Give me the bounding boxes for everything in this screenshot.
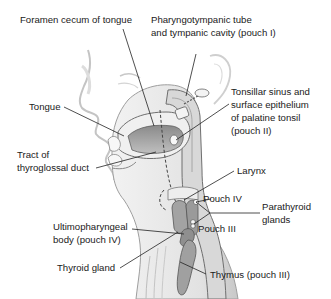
label-larynx: Larynx: [237, 165, 266, 177]
thyroid-lobe: [172, 201, 188, 234]
label-tract-line2: thyroglossal duct: [17, 162, 89, 174]
ear: [210, 55, 230, 104]
label-tonsillar-line1: Tonsillar sinus and: [231, 86, 310, 98]
label-parathyroid-line1: Parathyroid: [262, 201, 311, 213]
label-tonsillar-line4: (pouch II): [231, 125, 272, 137]
label-pharyngotympanic-line2: and tympanic cavity (pouch I): [151, 27, 276, 39]
label-ultimopharyngeal-line2: body (pouch IV): [53, 234, 121, 246]
palatine-tonsil: [170, 135, 178, 145]
label-pouch-iii: Pouch III: [198, 223, 236, 235]
label-parathyroid-line2: glands: [262, 214, 290, 226]
label-pouch-iv: Pouch IV: [203, 193, 242, 205]
anatomy-illustration: [0, 0, 331, 299]
label-foramen-cecum: Foramen cecum of tongue: [20, 14, 132, 26]
parathyroid-iii: [191, 224, 195, 228]
larynx-shape: [168, 187, 198, 200]
label-tonsillar-line3: of palatine tonsil: [231, 112, 300, 124]
teeth: [108, 136, 120, 151]
label-thyroid-gland: Thyroid gland: [57, 262, 115, 274]
label-pharyngotympanic-line1: Pharyngotympanic tube: [151, 14, 252, 26]
label-tonsillar-line2: surface epithelium: [231, 99, 309, 111]
label-ultimopharyngeal-line1: Ultimopharyngeal: [53, 221, 128, 233]
label-tongue: Tongue: [29, 101, 60, 113]
label-tract-line1: Tract of: [17, 149, 49, 161]
label-thymus: Thymus (pouch III): [210, 269, 290, 281]
